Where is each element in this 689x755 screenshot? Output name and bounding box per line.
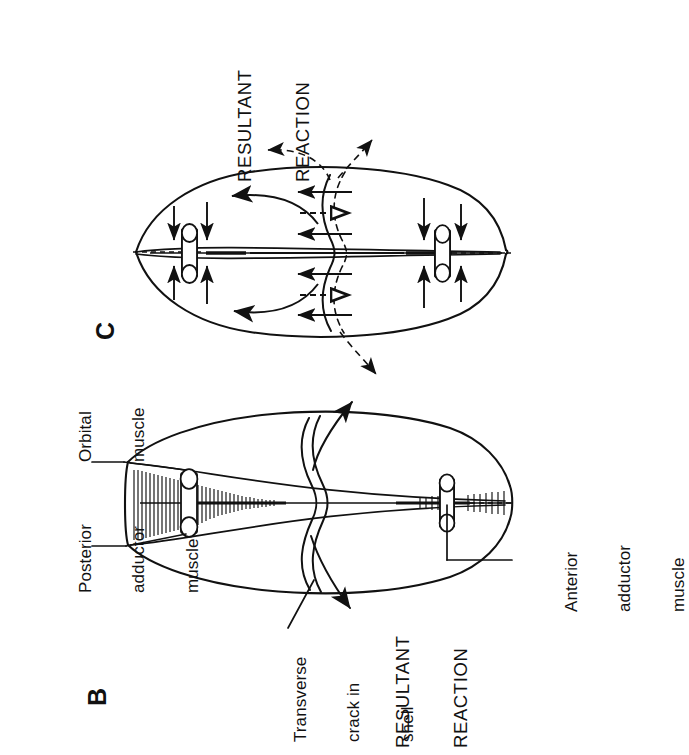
label-anterior-adductor-muscle: Anterior adductor muscle: [527, 545, 689, 612]
panel-c-posterior-adductor-muscle: [182, 224, 197, 283]
label-posterior-adductor-muscle: Posterior adductor muscle: [41, 524, 219, 593]
panel-b-letter: B: [84, 688, 110, 706]
panel-b-resultant-line-2: REACTION: [451, 635, 470, 748]
label-orbital-muscle: Orbital muscle: [41, 408, 166, 462]
panel-b-resultant-reaction-label: RESULTANT REACTION: [354, 635, 490, 748]
posterior-adductor-line-2: adductor: [130, 524, 148, 593]
panel-c-resultant-line-1: RESULTANT: [235, 69, 254, 182]
anterior-adductor-line-3: muscle: [670, 545, 688, 612]
orbital-muscle-line-2: muscle: [130, 408, 148, 462]
panel-c-anterior-adductor-muscle: [435, 225, 450, 282]
panel-c-resultant-line-2: REACTION: [293, 69, 312, 182]
anterior-adductor-line-1: Anterior: [563, 545, 581, 612]
anterior-adductor-line-2: adductor: [616, 545, 634, 612]
posterior-adductor-line-1: Posterior: [77, 524, 95, 593]
panel-c-letter: C: [92, 322, 118, 340]
panel-c-resultant-reaction-label: RESULTANT REACTION: [196, 69, 332, 182]
transverse-crack-line-1: Transverse: [292, 657, 310, 742]
panel-b-resultant-line-1: RESULTANT: [393, 635, 412, 748]
posterior-adductor-line-3: muscle: [184, 524, 202, 593]
orbital-muscle-line-1: Orbital: [77, 408, 95, 462]
